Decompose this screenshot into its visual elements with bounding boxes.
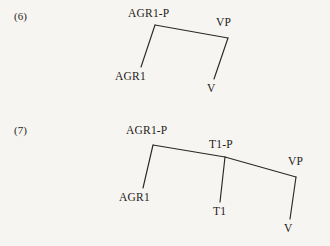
tree-node-label-t1: T1: [213, 205, 226, 217]
tree-edge-t1p-vp: [225, 157, 296, 177]
tree-node-label-t1p: T1-P: [209, 138, 233, 150]
tree-node-label-v: V: [284, 222, 293, 234]
tree-node-label-vp: VP: [288, 155, 303, 167]
tree-edge-t1p-t1: [220, 157, 225, 202]
tree-node-label-agr1: AGR1: [119, 191, 150, 203]
syntax-tree-example-7: (7) AGR1-PAGR1T1-PT1VPV: [0, 0, 330, 246]
document-page: (6) AGR1-PAGR1VPV (7) AGR1-PAGR1T1-PT1VP…: [0, 0, 330, 246]
example-number-7: (7): [14, 124, 27, 136]
tree-node-label-agr1p: AGR1-P: [126, 124, 167, 136]
tree-edge-vp-v: [290, 177, 296, 219]
tree-edges-7: [0, 0, 330, 246]
tree-edge-agr1p-agr1: [143, 145, 153, 188]
